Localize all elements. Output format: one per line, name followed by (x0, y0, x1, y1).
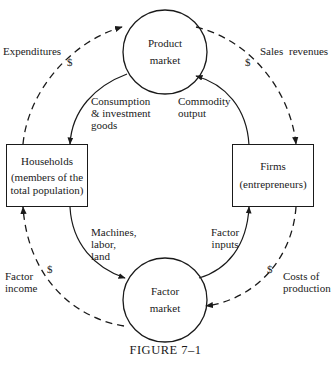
factor-market-label-1: Factor (151, 283, 179, 300)
sales-revenues-label: Sales revenues (260, 45, 328, 57)
machines-label: Machines, labor, land (91, 226, 137, 262)
factor-income-dollar-sign: $ (47, 263, 53, 275)
costs-of-production-label: Costs of production (283, 270, 331, 294)
factor-income-dashed-arrow (23, 207, 124, 326)
consumption-line-2: & investment (91, 107, 151, 119)
product-market-label-1: Product (148, 35, 182, 52)
firms-box: Firms (entrepreneurs) (232, 144, 314, 207)
households-subtitle-1: (members of the (11, 171, 83, 184)
expenditures-dollar-sign: $ (67, 56, 73, 68)
firms-subtitle: (entrepreneurs) (239, 178, 306, 191)
sales-revenues-dollar-sign: $ (245, 56, 251, 68)
machines-line-1: Machines, (91, 226, 137, 238)
factor-income-line-1: Factor (5, 270, 37, 282)
households-box: Households (members of the total populat… (6, 144, 88, 207)
product-market-node: Product market (123, 10, 207, 94)
machines-line-2: labor, (91, 238, 137, 250)
households-subtitle-2: total population) (10, 184, 83, 197)
factor-income-label: Factor income (5, 270, 37, 294)
costs-dollar-sign: $ (267, 263, 273, 275)
factor-inputs-line-2: inputs (211, 238, 239, 250)
consumption-line-1: Consumption (91, 95, 151, 107)
commodity-line-2: output (178, 107, 231, 119)
factor-inputs-label: Factor inputs (211, 226, 239, 250)
firms-title: Firms (260, 160, 286, 173)
factor-market-node: Factor market (123, 258, 207, 342)
expenditures-label: Expenditures (3, 45, 61, 57)
product-market-label-2: market (150, 52, 181, 69)
factor-inputs-line-1: Factor (211, 226, 239, 238)
commodity-line-1: Commodity (178, 95, 231, 107)
households-title: Households (21, 155, 73, 168)
factor-market-label-2: market (150, 300, 181, 317)
machines-line-3: land (91, 250, 137, 262)
consumption-line-3: goods (91, 119, 151, 131)
figure-caption: FIGURE 7–1 (0, 343, 331, 358)
consumption-label: Consumption & investment goods (91, 95, 151, 131)
factor-income-line-2: income (5, 282, 37, 294)
costs-line-2: production (283, 282, 331, 294)
costs-line-1: Costs of (283, 270, 331, 282)
commodity-output-label: Commodity output (178, 95, 231, 119)
